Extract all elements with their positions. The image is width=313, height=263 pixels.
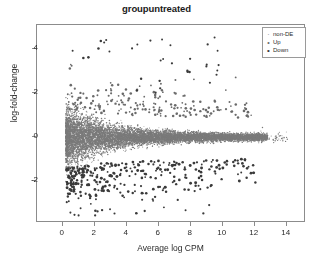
x-tick-mark bbox=[158, 222, 159, 226]
x-tick-mark bbox=[62, 222, 63, 226]
page-title: groupuntreated bbox=[0, 3, 313, 14]
y-tick-label: -2 bbox=[8, 175, 38, 184]
x-tick-label: 10 bbox=[207, 228, 237, 237]
legend-item-label: Down bbox=[273, 47, 288, 55]
legend-item-label: Up bbox=[273, 39, 281, 47]
legend-item: •Down bbox=[264, 47, 303, 55]
x-tick-label: 6 bbox=[143, 228, 173, 237]
y-axis-label: log-fold-change bbox=[9, 43, 19, 143]
legend-marker-icon: • bbox=[264, 47, 273, 54]
x-tick-mark bbox=[254, 222, 255, 226]
legend-item: •Up bbox=[264, 39, 303, 47]
legend-marker-icon: • bbox=[264, 39, 273, 46]
x-tick-mark bbox=[94, 222, 95, 226]
ma-plot-figure: groupuntreated 420-2 02468101214 Average… bbox=[0, 0, 313, 263]
x-tick-mark bbox=[190, 222, 191, 226]
x-tick-label: 2 bbox=[79, 228, 109, 237]
x-tick-mark bbox=[222, 222, 223, 226]
legend-item: ·non-DE bbox=[264, 31, 303, 39]
legend-item-label: non-DE bbox=[273, 31, 293, 39]
x-tick-label: 4 bbox=[111, 228, 141, 237]
x-tick-mark bbox=[286, 222, 287, 226]
legend: ·non-DE•Up•Down bbox=[262, 27, 306, 58]
x-tick-label: 12 bbox=[239, 228, 269, 237]
legend-marker-icon: · bbox=[264, 31, 273, 38]
x-tick-label: 0 bbox=[47, 228, 77, 237]
x-tick-label: 8 bbox=[175, 228, 205, 237]
x-tick-mark bbox=[126, 222, 127, 226]
x-tick-label: 14 bbox=[271, 228, 301, 237]
x-axis-label: Average log CPM bbox=[36, 243, 305, 253]
